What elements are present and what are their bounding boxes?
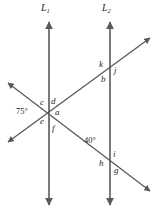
line-label-l1-base: L [41, 2, 47, 13]
angle-label-a: a [55, 108, 60, 117]
angle-label-b: b [101, 75, 106, 84]
angle-label-c: c [40, 98, 44, 107]
line-label-l1: L1 [41, 3, 50, 13]
transversal-down-right [8, 83, 150, 191]
angle-label-h: h [99, 159, 104, 168]
angle-label-f: f [52, 124, 55, 133]
angle-label-i: i [113, 150, 116, 159]
line-label-l2-sub: 2 [108, 7, 111, 14]
angle-label-k: k [99, 60, 103, 69]
angle-label-d: d [51, 97, 56, 106]
geometry-diagram: L1 L2 75° c d a e f k j b 40° i h g [0, 0, 158, 217]
transversal-up-right [8, 38, 150, 142]
line-label-l2: L2 [102, 3, 111, 13]
angle-label-75-degrees: 75° [16, 107, 28, 116]
angle-label-40-degrees: 40° [84, 136, 96, 145]
line-label-l2-base: L [102, 2, 108, 13]
angle-label-e: e [40, 117, 44, 126]
angle-label-g: g [114, 166, 119, 175]
line-label-l1-sub: 1 [47, 7, 50, 14]
angle-label-j: j [114, 66, 117, 75]
